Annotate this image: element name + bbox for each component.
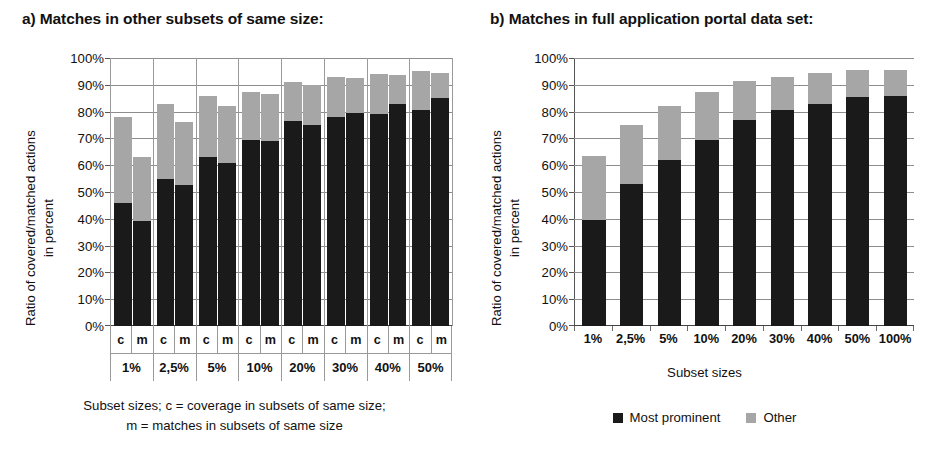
group-divider [451,353,452,381]
cm-divider [217,326,218,353]
y-tick-label: 100% [60,51,104,66]
panel-a-y-axis-label: Ratio of covered/matched actions in perc… [22,130,58,326]
group-divider [409,353,410,381]
cm-divider [388,326,389,353]
cm-label-c: c [196,326,217,353]
y-tick-mark [569,192,574,193]
category-label: 50% [409,353,452,381]
stacked-bar [884,58,907,326]
cm-divider [131,326,132,353]
bar-segment-other [199,96,217,158]
group-separator [196,58,197,326]
stacked-bar [370,58,388,326]
bar-segment-most-prominent [346,113,364,326]
stacked-bar [389,58,407,326]
bar-group [154,58,197,326]
bar-segment-most-prominent [157,179,175,326]
category-label: 1% [574,326,612,356]
bar-group [575,58,613,326]
category-label: 30% [324,353,367,381]
category-label: 2,5% [153,353,196,381]
x-tick-mark [650,326,651,331]
panel-b-size-row: 1%2,5%5%10%20%30%40%50%100% [574,326,914,356]
bar-segment-other [218,106,236,162]
legend-item: Most prominent [613,410,721,425]
panel-a-cm-row: cmcmcmcmcmcmcmcm [110,326,452,353]
category-label: 20% [281,353,324,381]
category-label: 50% [838,326,876,356]
panel-a-axis-area [110,58,452,326]
y-tick-mark [569,272,574,273]
bar-segment-other [114,117,132,203]
y-tick-label: 70% [524,131,568,146]
bar-group [650,58,688,326]
bar-segment-other [175,122,193,185]
bar-group [726,58,764,326]
bar-segment-most-prominent [389,104,407,326]
category-label: 30% [763,326,801,356]
bar-segment-other [157,104,175,179]
stacked-bar [284,58,302,326]
group-divider [110,353,111,381]
y-tick-label: 80% [60,104,104,119]
y-tick-mark [569,138,574,139]
stacked-bar [114,58,132,326]
cm-label-m: m [217,326,238,353]
bar-segment-most-prominent [620,184,643,326]
panel-b-category-axis: 1%2,5%5%10%20%30%40%50%100% [574,326,914,356]
group-divider [153,326,154,353]
bar-segment-most-prominent [846,97,869,326]
bar-segment-other [133,157,151,221]
y-tick-label: 20% [524,265,568,280]
y-tick-label: 60% [60,158,104,173]
x-tick-mark [876,326,877,331]
panel-a-title: a) Matches in other subsets of same size… [22,10,324,28]
group-divider [238,353,239,381]
bar-group [876,58,914,326]
bar-segment-most-prominent [199,157,217,326]
cm-group-cell: cm [110,326,153,353]
group-divider [324,326,325,353]
y-tick-label: 80% [524,104,568,119]
panel-a-size-row: 1%2,5%5%10%20%30%40%50% [110,353,452,381]
y-tick-label: 10% [524,292,568,307]
stacked-bar [218,58,236,326]
bar-segment-other [582,156,605,220]
cm-label-m: m [174,326,195,353]
cm-label-m: m [302,326,323,353]
y-tick-label: 90% [524,77,568,92]
cm-label-m: m [131,326,152,353]
panel-a: a) Matches in other subsets of same size… [0,0,469,462]
legend-swatch-icon [613,413,623,423]
stacked-bar [346,58,364,326]
bar-group [324,58,367,326]
category-label: 5% [196,353,239,381]
y-tick-label: 20% [60,265,104,280]
bar-group [801,58,839,326]
panel-a-category-axis: cmcmcmcmcmcmcmcm 1%2,5%5%10%20%30%40%50% [110,326,452,382]
bar-segment-other [346,78,364,113]
bar-segment-other [431,73,449,98]
bar-segment-most-prominent [370,114,388,326]
y-tick-mark [569,58,574,59]
bar-group [839,58,877,326]
bar-segment-most-prominent [884,96,907,326]
cm-label-c: c [153,326,174,353]
x-tick-mark [612,326,613,331]
bar-group [613,58,651,326]
cm-label-m: m [260,326,281,353]
panel-b-bars [575,58,914,326]
cm-label-m: m [345,326,366,353]
y-tick-label: 100% [524,51,568,66]
category-label: 10% [687,326,725,356]
y-tick-label: 70% [60,131,104,146]
x-tick-mark [801,326,802,331]
y-tick-mark [569,112,574,113]
group-separator [281,58,282,326]
bar-segment-most-prominent [431,98,449,326]
bar-segment-other [303,85,321,125]
group-separator [238,58,239,326]
group-divider [238,326,239,353]
cm-divider [431,326,432,353]
x-tick-mark [687,326,688,331]
